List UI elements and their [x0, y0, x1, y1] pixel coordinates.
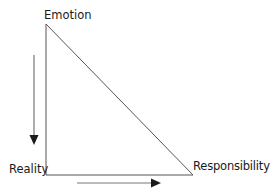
down-arrow-icon: [30, 55, 39, 145]
vertex-label-responsibility: Responsibility: [193, 161, 270, 173]
vertex-label-reality: Reality: [9, 164, 48, 176]
diagram-canvas: Emotion Reality Responsibility: [0, 0, 276, 194]
right-arrow-icon: [77, 179, 161, 188]
triangle-shape: [46, 24, 193, 175]
vertex-label-emotion: Emotion: [44, 10, 92, 22]
